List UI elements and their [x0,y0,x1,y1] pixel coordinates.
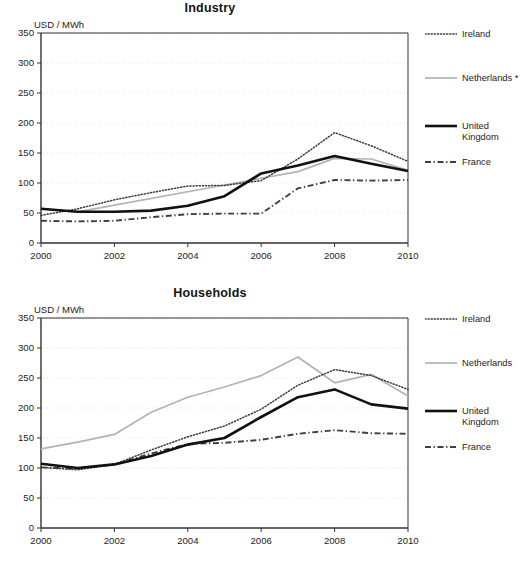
svg-text:100: 100 [18,462,34,473]
svg-text:200: 200 [18,117,34,128]
legend-swatch-icon [425,156,457,168]
svg-text:2008: 2008 [324,250,345,261]
series-line-netherlands [41,357,408,449]
legend-item-france[interactable]: France [425,156,491,168]
svg-text:2000: 2000 [30,535,51,546]
svg-text:350: 350 [18,27,34,38]
legend-swatch-icon [425,72,457,84]
svg-text:2010: 2010 [397,250,418,261]
legend-label: United Kingdom [462,405,499,427]
legend-label: Ireland [462,313,490,325]
legend-item-united-kingdom[interactable]: United Kingdom [425,120,499,142]
legend-label: France [462,441,491,453]
svg-text:2002: 2002 [104,535,125,546]
legend-label: Netherlands * [462,72,518,84]
svg-text:50: 50 [23,207,34,218]
legend-swatch-icon [425,28,457,40]
legend-label: Ireland [462,28,490,40]
svg-text:350: 350 [18,312,34,323]
chart-panel-households: Households USD / MWh 0501001502002503003… [0,285,520,570]
legend-item-netherlands[interactable]: Netherlands * [425,72,518,84]
svg-text:300: 300 [18,57,34,68]
svg-text:50: 50 [23,492,34,503]
svg-text:250: 250 [18,87,34,98]
svg-text:2006: 2006 [251,535,272,546]
svg-text:200: 200 [18,402,34,413]
svg-text:250: 250 [18,372,34,383]
svg-text:300: 300 [18,342,34,353]
series-line-ireland [41,370,408,470]
svg-text:2004: 2004 [177,535,199,546]
legend-label: United Kingdom [462,120,499,142]
legend-label: Netherlands [462,357,512,369]
svg-text:0: 0 [29,522,34,533]
svg-text:2004: 2004 [177,250,199,261]
series-line-united-kingdom [41,156,408,212]
series-line-france [41,180,408,221]
legend-households: IrelandNetherlandsUnited KingdomFrance [425,313,520,463]
legend-item-ireland[interactable]: Ireland [425,28,490,40]
legend-item-ireland[interactable]: Ireland [425,313,490,325]
legend-swatch-icon [425,405,457,417]
chart-panel-industry: Industry USD / MWh 050100150200250300350… [0,0,520,285]
series-line-united-kingdom [41,389,408,468]
series-line-france [41,430,408,468]
legend-industry: IrelandNetherlands *United KingdomFrance [425,28,520,178]
legend-item-france[interactable]: France [425,441,491,453]
legend-item-netherlands[interactable]: Netherlands [425,357,512,369]
legend-swatch-icon [425,357,457,369]
svg-text:2006: 2006 [251,250,272,261]
svg-text:150: 150 [18,432,34,443]
svg-text:2002: 2002 [104,250,125,261]
legend-swatch-icon [425,441,457,453]
svg-text:0: 0 [29,237,34,248]
series-line-ireland [41,133,408,216]
svg-text:2000: 2000 [30,250,51,261]
legend-item-united-kingdom[interactable]: United Kingdom [425,405,499,427]
legend-label: France [462,156,491,168]
svg-text:100: 100 [18,177,34,188]
legend-swatch-icon [425,120,457,132]
svg-text:2010: 2010 [397,535,418,546]
chart-page: Industry USD / MWh 050100150200250300350… [0,0,520,570]
svg-text:150: 150 [18,147,34,158]
legend-swatch-icon [425,313,457,325]
svg-text:2008: 2008 [324,535,345,546]
